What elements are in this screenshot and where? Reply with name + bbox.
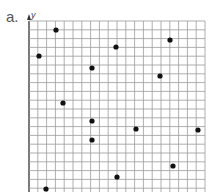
data-point: [195, 127, 200, 132]
scatter-grid: [0, 0, 215, 192]
data-point: [36, 53, 41, 58]
data-point: [89, 65, 94, 70]
data-point: [43, 186, 48, 191]
data-point: [89, 137, 94, 142]
data-point: [89, 118, 94, 123]
data-point: [167, 37, 172, 42]
data-point: [133, 126, 138, 131]
data-point: [114, 174, 119, 179]
data-point: [53, 27, 58, 32]
data-point: [157, 73, 162, 78]
data-point: [60, 100, 65, 105]
data-point: [170, 163, 175, 168]
data-point: [113, 44, 118, 49]
